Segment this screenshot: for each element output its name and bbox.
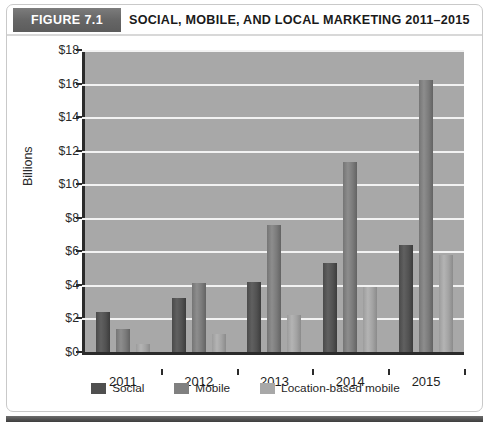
bar	[287, 315, 301, 352]
y-axis-tickmark	[76, 183, 82, 185]
bar	[267, 225, 281, 353]
y-axis-tickmark	[76, 250, 82, 252]
y-axis-tickmark	[76, 83, 82, 85]
legend-label: Location-based mobile	[281, 381, 400, 395]
legend-item: Social	[91, 381, 144, 395]
bar	[419, 80, 433, 352]
bar	[96, 312, 110, 352]
y-axis-tickmark	[76, 49, 82, 51]
x-axis-tickmark	[312, 369, 314, 375]
x-axis-tickmark	[464, 369, 466, 375]
legend-item: Mobile	[174, 381, 230, 395]
plot-wrapper: $0$2$4$6$8$10$12$14$16$18 20112012201320…	[82, 50, 464, 355]
y-axis-tick-label: $18	[19, 43, 79, 57]
bar-series-layer	[85, 50, 464, 352]
bar	[343, 162, 357, 352]
bar-group	[312, 50, 388, 352]
bar	[363, 287, 377, 352]
y-axis-tick-label: $14	[19, 110, 79, 124]
y-axis-tickmark	[76, 116, 82, 118]
legend-item: Location-based mobile	[260, 381, 400, 395]
y-axis-tick-label: $0	[19, 345, 79, 359]
bar	[439, 255, 453, 352]
x-axis-tickmark	[388, 369, 390, 375]
legend-label: Mobile	[195, 381, 230, 395]
y-axis-tickmark	[76, 351, 82, 353]
chart-legend: SocialMobileLocation-based mobile	[7, 381, 483, 395]
bar	[192, 283, 206, 352]
bar-group	[237, 50, 313, 352]
y-axis-tick-label: $4	[19, 278, 79, 292]
x-axis-tickmark	[237, 369, 239, 375]
y-axis-tickmark	[76, 217, 82, 219]
bar	[172, 298, 186, 352]
figure-header: FIGURE 7.1 SOCIAL, MOBILE, AND LOCAL MAR…	[7, 5, 482, 34]
bar	[247, 282, 261, 352]
figure-number-tab: FIGURE 7.1	[13, 8, 121, 32]
bar-group	[85, 50, 161, 352]
bar	[136, 344, 150, 352]
figure-bottom-rule	[6, 416, 483, 422]
y-axis-tickmark	[76, 150, 82, 152]
bar	[116, 329, 130, 352]
y-axis-tick-label: $12	[19, 144, 79, 158]
legend-label: Social	[112, 381, 144, 395]
y-axis-tickmark	[76, 284, 82, 286]
y-axis-tick-label: $10	[19, 177, 79, 191]
bar-group	[388, 50, 464, 352]
y-axis-tick-label: $6	[19, 244, 79, 258]
figure-title: SOCIAL, MOBILE, AND LOCAL MARKETING 2011…	[129, 8, 476, 32]
legend-swatch	[91, 383, 106, 394]
x-axis-tickmark	[161, 369, 163, 375]
legend-swatch	[260, 383, 275, 394]
legend-swatch	[174, 383, 189, 394]
chart-area: Billions $0$2$4$6$8$10$12$14$16$18 20112…	[7, 36, 483, 396]
y-axis-tickmark	[76, 317, 82, 319]
y-axis-tick-label: $16	[19, 77, 79, 91]
bar	[212, 334, 226, 352]
bar	[399, 245, 413, 352]
bar-group	[161, 50, 237, 352]
figure-container: FIGURE 7.1 SOCIAL, MOBILE, AND LOCAL MAR…	[6, 4, 483, 412]
bar	[323, 263, 337, 352]
y-axis-tick-label: $2	[19, 311, 79, 325]
y-axis-tick-label: $8	[19, 211, 79, 225]
